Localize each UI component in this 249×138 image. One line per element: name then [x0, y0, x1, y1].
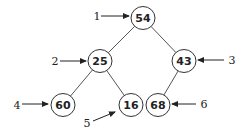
tree-edge [107, 70, 125, 95]
index-label: 5 [84, 112, 116, 130]
tree-edges [70, 26, 178, 96]
tree-edge [164, 71, 178, 95]
node-value: 60 [55, 99, 71, 112]
tree-edge [70, 70, 92, 96]
tree-node: 25 [88, 50, 112, 73]
label-number: 6 [201, 98, 208, 111]
arrow-icon [93, 112, 115, 121]
tree-node: 68 [146, 94, 170, 117]
binary-tree-diagram: 542543601668 123456 [0, 0, 249, 138]
label-number: 3 [229, 54, 236, 67]
index-label: 6 [172, 98, 208, 111]
label-number: 1 [94, 10, 101, 23]
index-label: 2 [52, 55, 87, 68]
tree-edge [151, 26, 176, 52]
index-label: 4 [14, 99, 49, 112]
tree-node: 43 [172, 50, 196, 73]
tree-node: 54 [131, 7, 155, 30]
node-value: 16 [123, 99, 139, 112]
node-value: 68 [150, 99, 165, 112]
label-number: 2 [52, 55, 59, 68]
tree-node: 60 [51, 94, 75, 117]
index-label: 1 [94, 10, 130, 23]
index-label: 3 [198, 54, 236, 67]
node-value: 54 [135, 12, 151, 25]
label-number: 5 [84, 117, 91, 130]
node-value: 25 [92, 55, 107, 68]
label-number: 4 [14, 99, 21, 112]
node-value: 43 [176, 55, 191, 68]
tree-node: 16 [119, 94, 143, 117]
tree-edge [108, 26, 135, 53]
